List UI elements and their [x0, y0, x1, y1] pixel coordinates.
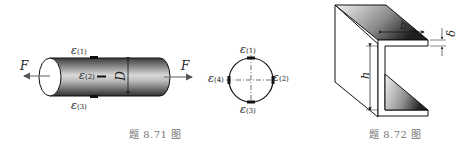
thickness-delta-label: δ: [446, 30, 457, 37]
section-gauge-2-label: ε(2): [273, 72, 289, 83]
force-left-label: F: [20, 60, 28, 72]
figure-871-caption: 题 8.71 图: [129, 126, 182, 141]
cross-section: [226, 55, 276, 105]
gauge-3-label: ε(3): [71, 100, 87, 111]
gauge-2-label: ε(2): [79, 70, 95, 81]
gauge-1-marker: [90, 56, 98, 59]
diameter-label: D: [115, 71, 127, 81]
figure-872-caption: 题 8.72 图: [369, 126, 422, 141]
width-b-label: b: [400, 20, 407, 31]
gauge-2-marker: [97, 76, 106, 78]
height-h-label: h: [360, 72, 371, 79]
channel-section: [335, 5, 446, 117]
cylinder-bar: [39, 56, 170, 98]
section-gauge-1-label: ε(1): [240, 44, 256, 55]
force-right-label: F: [181, 60, 189, 72]
section-gauge-4-label: ε(4): [208, 73, 224, 84]
figures-canvas: [0, 0, 464, 147]
gauge-3-marker: [90, 95, 98, 98]
gauge-1-label: ε(1): [71, 45, 87, 56]
section-gauge-3-label: ε(3): [240, 104, 256, 115]
